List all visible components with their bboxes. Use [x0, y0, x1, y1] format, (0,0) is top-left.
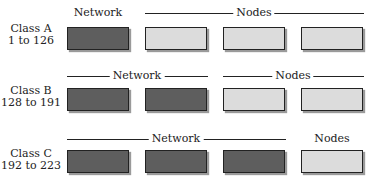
network-header: Network — [67, 70, 208, 82]
octet-3-network — [223, 150, 285, 173]
class-range: 128 to 191 — [0, 97, 62, 109]
octet-4-node — [301, 150, 363, 173]
network-header: Network — [67, 133, 286, 145]
network-label: Network — [110, 70, 165, 82]
class-c-label: Class C 192 to 223 — [0, 148, 62, 172]
octet-2-network — [145, 150, 207, 173]
octet-3-node — [223, 27, 285, 50]
network-label: Network — [149, 133, 204, 145]
nodes-header: Nodes — [301, 133, 364, 145]
nodes-header: Nodes — [223, 70, 364, 82]
network-header: Network — [67, 7, 130, 19]
octet-2-node — [145, 27, 207, 50]
octet-1-network — [67, 88, 129, 111]
octet-3-node — [223, 88, 285, 111]
octet-4-node — [301, 88, 363, 111]
class-a-label: Class A 1 to 126 — [0, 23, 62, 47]
network-label: Network — [71, 7, 126, 19]
class-b-label: Class B 128 to 191 — [0, 85, 62, 109]
octet-2-network — [145, 88, 207, 111]
nodes-label: Nodes — [233, 7, 274, 19]
nodes-label: Nodes — [272, 70, 313, 82]
nodes-header: Nodes — [145, 7, 364, 19]
octet-1-network — [67, 27, 129, 50]
nodes-label: Nodes — [311, 133, 352, 145]
octet-1-network — [67, 150, 129, 173]
octet-4-node — [301, 27, 363, 50]
class-range: 1 to 126 — [0, 35, 62, 47]
class-range: 192 to 223 — [0, 160, 62, 172]
